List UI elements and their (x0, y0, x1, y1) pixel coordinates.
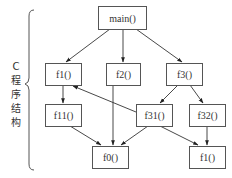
edge-f31-f1 (73, 86, 136, 112)
brace-icon (25, 10, 34, 170)
node-f2: f2() (107, 64, 141, 86)
edge-f3-f32 (190, 85, 203, 103)
svg-text:f32(): f32() (198, 110, 218, 122)
svg-text:f2(): f2() (116, 69, 131, 81)
node-main: main() (99, 7, 147, 30)
svg-text:f0(): f0() (103, 152, 118, 164)
call-graph-diagram: main() f1() f2() f3() f11() f31() f32() … (0, 0, 232, 178)
node-f32: f32() (190, 105, 226, 127)
edge-main-f3 (136, 29, 182, 62)
edge-f31-f0 (121, 126, 148, 145)
node-f31: f31() (137, 105, 173, 127)
node-f1-bottom: f1() (190, 147, 226, 169)
node-f11: f11() (46, 105, 82, 127)
svg-text:f1(): f1() (200, 152, 215, 164)
edges (63, 29, 207, 145)
node-f0: f0() (93, 147, 129, 169)
node-f1: f1() (46, 64, 82, 86)
edge-main-f1 (66, 29, 110, 62)
edge-f31-f1-bottom (160, 126, 198, 145)
edge-f11-f0 (70, 126, 101, 145)
svg-text:f1(): f1() (56, 69, 71, 81)
svg-text:main(): main() (109, 13, 136, 25)
svg-text:f31(): f31() (145, 110, 165, 122)
node-f3: f3() (167, 64, 203, 86)
edge-f3-f31 (160, 85, 178, 103)
svg-text:f3(): f3() (177, 69, 192, 81)
svg-text:f11(): f11() (54, 110, 74, 122)
